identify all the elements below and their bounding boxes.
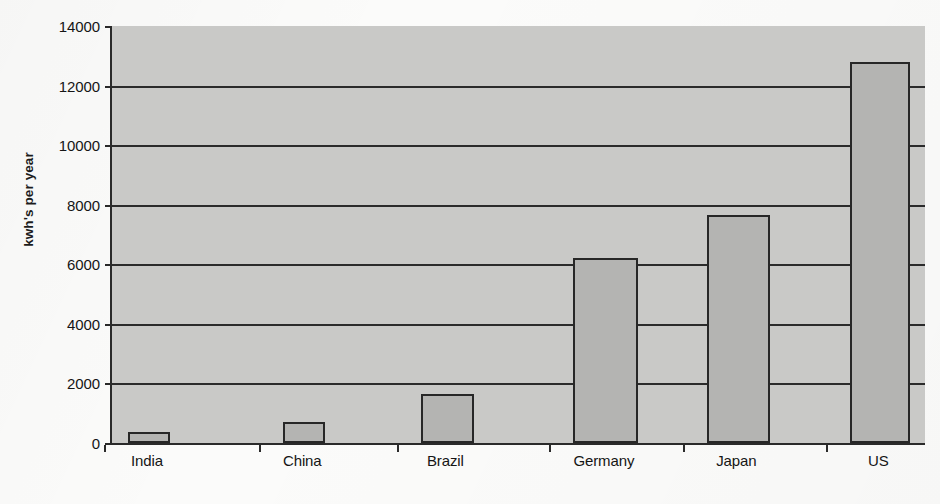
x-axis-tick-label: Germany xyxy=(573,452,634,469)
y-axis-tick-mark xyxy=(105,324,112,326)
bar-japan xyxy=(707,215,770,443)
y-axis-tick-mark xyxy=(105,264,112,266)
y-axis-tick-label: 8000 xyxy=(8,196,100,213)
gridline xyxy=(112,205,925,207)
y-axis-tick-mark xyxy=(105,26,112,28)
plot-area xyxy=(110,26,925,445)
x-axis-tick-label: Brazil xyxy=(427,452,464,469)
y-axis-tick-label: 10000 xyxy=(8,137,100,154)
bar-chart: kwh's per year 0200040006000800010000120… xyxy=(0,0,940,504)
gridline xyxy=(112,86,925,88)
gridline xyxy=(112,324,925,326)
y-axis-tick-mark xyxy=(105,383,112,385)
bar-germany xyxy=(573,258,638,443)
y-axis-tick-label: 0 xyxy=(8,435,100,452)
bar-brazil xyxy=(421,394,475,443)
y-axis-tick-label: 2000 xyxy=(8,375,100,392)
x-axis-tick-label: China xyxy=(283,452,322,469)
y-axis-tick-mark xyxy=(105,443,112,445)
gridline xyxy=(112,264,925,266)
bar-india xyxy=(128,432,170,443)
x-axis-tick-label: US xyxy=(868,452,889,469)
x-axis-tick-label: Japan xyxy=(716,452,756,469)
x-axis-tick-mark xyxy=(259,445,261,452)
y-axis-tick-mark xyxy=(105,205,112,207)
y-axis-tick-labels: 02000400060008000100001200014000 xyxy=(8,0,100,504)
x-axis-tick-mark xyxy=(549,445,551,452)
gridline xyxy=(112,383,925,385)
y-axis-tick-label: 4000 xyxy=(8,315,100,332)
y-axis-tick-mark xyxy=(105,145,112,147)
y-axis-tick-mark xyxy=(105,86,112,88)
bar-us xyxy=(850,62,910,443)
x-axis-tick-mark xyxy=(397,445,399,452)
y-axis-tick-label: 12000 xyxy=(8,77,100,94)
x-axis-tick-mark xyxy=(104,445,106,452)
x-axis-tick-mark xyxy=(826,445,828,452)
x-axis-tick-label: India xyxy=(131,452,163,469)
y-axis-tick-label: 14000 xyxy=(8,18,100,35)
x-axis-tick-labels: IndiaChinaBrazilGermanyJapanUS xyxy=(110,452,923,492)
x-axis-tick-mark xyxy=(683,445,685,452)
gridline xyxy=(112,145,925,147)
y-axis-tick-label: 6000 xyxy=(8,256,100,273)
bar-china xyxy=(283,422,325,443)
